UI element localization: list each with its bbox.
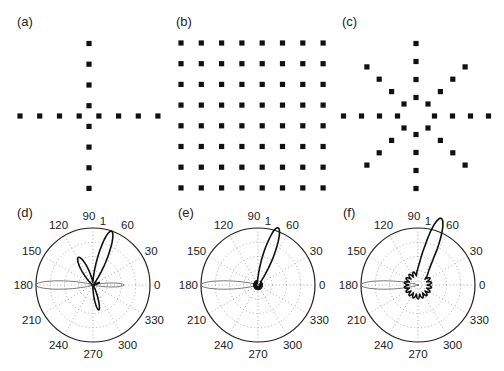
polar-angle-tick-label: 180 [339, 279, 358, 291]
array-element-marker [199, 185, 204, 190]
array-element-marker [438, 89, 443, 94]
array-b-grid [178, 40, 325, 190]
array-element-marker [219, 40, 224, 45]
array-element-marker [413, 168, 418, 173]
array-element-marker [178, 123, 183, 128]
array-element-marker [359, 113, 364, 118]
array-a-cross [17, 41, 160, 191]
polar-grid-spoke [258, 285, 287, 334]
array-element-marker [321, 123, 326, 128]
array-element-marker [86, 103, 91, 108]
array-element-marker [219, 165, 224, 170]
array-element-marker [450, 150, 455, 155]
polar-angle-tick-label: 30 [145, 245, 158, 257]
array-element-marker [86, 82, 91, 87]
array-element-marker [260, 103, 265, 108]
polar-angle-tick-label: 90 [408, 210, 421, 222]
array-element-marker [300, 185, 305, 190]
array-element-marker [413, 95, 418, 100]
array-element-marker [280, 123, 285, 128]
polar-plot-d: 90603003303002702402101801501201 [14, 210, 164, 360]
array-element-marker [413, 77, 418, 82]
polar-angle-tick-label: 0 [154, 279, 160, 291]
polar-angle-tick-label: 210 [22, 314, 41, 326]
polar-angle-tick-label: 60 [286, 219, 299, 231]
array-element-marker [219, 103, 224, 108]
array-element-marker [77, 113, 82, 118]
polar-radius-label: 1 [425, 215, 431, 227]
array-element-marker [280, 82, 285, 87]
polar-grid-spoke [93, 285, 142, 314]
array-element-marker [239, 144, 244, 149]
polar-grid-spoke [65, 236, 94, 285]
array-element-marker [432, 113, 437, 118]
array-element-marker [86, 186, 91, 191]
polar-radius-label: 1 [100, 215, 106, 227]
array-element-marker [377, 150, 382, 155]
polar-angle-tick-label: 150 [22, 245, 41, 257]
array-element-marker [377, 113, 382, 118]
polar-angle-tick-label: 240 [49, 339, 68, 351]
array-c-star [341, 41, 491, 191]
array-element-marker [219, 123, 224, 128]
array-element-marker [413, 59, 418, 64]
polar-angle-tick-label: 120 [374, 219, 393, 231]
array-element-marker [260, 123, 265, 128]
polar-radius-label: 1 [265, 215, 271, 227]
polar-angle-tick-label: 30 [310, 245, 323, 257]
polar-grid-spoke [258, 257, 307, 286]
main-beam-curve [254, 228, 280, 290]
array-element-marker [155, 113, 160, 118]
array-element-marker [280, 40, 285, 45]
panel-label-f: (f) [343, 205, 355, 220]
polar-angle-tick-label: 210 [187, 314, 206, 326]
polar-angle-tick-label: 60 [446, 219, 459, 231]
polar-angle-tick-label: 270 [408, 348, 427, 360]
array-element-marker [178, 144, 183, 149]
array-element-marker [239, 40, 244, 45]
array-element-marker [364, 64, 369, 69]
array-element-marker [239, 82, 244, 87]
panel-label-e: (e) [178, 205, 194, 220]
polar-grid-spoke [418, 285, 467, 314]
polar-angle-tick-label: 300 [118, 339, 137, 351]
array-element-marker [178, 82, 183, 87]
array-element-marker [17, 113, 22, 118]
array-element-marker [425, 125, 430, 130]
array-element-marker [468, 113, 473, 118]
polar-angle-tick-label: 240 [214, 339, 233, 351]
polar-grid-spoke [65, 285, 94, 334]
polar-plot-e: 90603003303002702402101801501201 [179, 210, 329, 360]
array-element-marker [239, 123, 244, 128]
array-element-marker [86, 124, 91, 129]
array-element-marker [321, 185, 326, 190]
polar-angle-tick-label: 300 [443, 339, 462, 351]
array-element-marker [199, 61, 204, 66]
array-element-marker [389, 89, 394, 94]
array-element-marker [425, 101, 430, 106]
polar-angle-tick-label: 30 [470, 245, 483, 257]
array-element-marker [199, 165, 204, 170]
array-element-marker [321, 144, 326, 149]
array-element-marker [178, 40, 183, 45]
array-element-marker [389, 138, 394, 143]
polar-angle-tick-label: 120 [49, 219, 68, 231]
polar-angle-tick-label: 240 [374, 339, 393, 351]
array-element-marker [280, 144, 285, 149]
array-element-marker [300, 61, 305, 66]
polar-angle-tick-label: 330 [310, 314, 329, 326]
main-beam-curve [78, 231, 113, 310]
array-element-marker [178, 103, 183, 108]
panel-label-c: (c) [342, 14, 357, 29]
array-element-marker [300, 82, 305, 87]
polar-grid-spoke [93, 257, 142, 286]
array-element-marker [178, 185, 183, 190]
array-element-marker [401, 125, 406, 130]
polar-angle-tick-label: 90 [83, 210, 96, 222]
array-element-marker [300, 40, 305, 45]
array-element-marker [219, 144, 224, 149]
array-element-marker [321, 165, 326, 170]
polar-grid-spoke [230, 236, 259, 285]
array-element-marker [300, 144, 305, 149]
array-element-marker [321, 82, 326, 87]
